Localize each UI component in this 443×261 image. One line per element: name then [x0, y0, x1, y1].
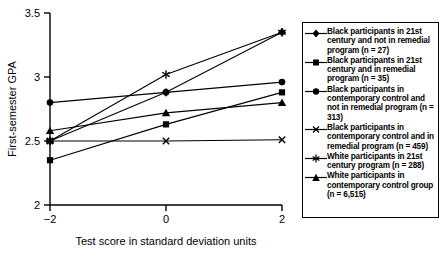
series-layer [46, 28, 286, 163]
series-square [47, 89, 285, 163]
data-point-star-1 [162, 70, 170, 79]
data-point-circle-2 [279, 79, 286, 86]
circle-marker-icon [305, 86, 327, 97]
plot-area: 3.5 3 2.5 2 −2 0 2 First-semester GPA Te… [0, 0, 300, 261]
legend-label-3: Black participants in contemporary contr… [327, 85, 435, 122]
legend-label-6: White participants in contemporary contr… [327, 171, 435, 199]
legend-label-4: Black participants in contemporary contr… [327, 123, 435, 151]
y-tick-label-2: 2 [34, 199, 40, 211]
data-point-triangle-2 [278, 99, 286, 106]
y-tick-label-2.5: 2.5 [25, 135, 40, 147]
data-point-circle-1 [163, 89, 170, 96]
x-tick-label--2: −2 [44, 213, 57, 225]
x-marker-icon [305, 124, 327, 135]
x-tick-label-2: 2 [279, 213, 285, 225]
series-diamond [46, 28, 286, 145]
legend-label-2: Black participants in 21st century and i… [327, 56, 435, 84]
x-axis-title: Test score in standard deviation units [76, 235, 257, 247]
square-marker-icon [305, 57, 327, 68]
legend-item-3: Black participants in contemporary contr… [305, 85, 435, 122]
data-point-square-0 [47, 157, 53, 163]
triangle-marker-icon [305, 172, 327, 183]
chart-figure: 3.5 3 2.5 2 −2 0 2 First-semester GPA Te… [0, 0, 443, 261]
legend-label-5: White participants in 21st century progr… [327, 152, 435, 171]
data-point-square-2 [279, 89, 285, 95]
data-point-square-1 [163, 121, 169, 127]
legend-label-1: Black participants in 21st century and n… [327, 27, 435, 55]
plot-svg: 3.5 3 2.5 2 −2 0 2 First-semester GPA Te… [0, 0, 300, 261]
diamond-marker-icon [305, 28, 327, 39]
legend-item-4: Black participants in contemporary contr… [305, 123, 435, 151]
legend-item-5: White participants in 21st century progr… [305, 152, 435, 171]
legend-item-6: White participants in contemporary contr… [305, 171, 435, 199]
series-triangle [46, 99, 286, 135]
x-tick-label-0: 0 [163, 213, 169, 225]
y-tick-label-3: 3 [34, 71, 40, 83]
legend-box: Black participants in 21st century and n… [302, 22, 439, 218]
legend-item-2: Black participants in 21st century and i… [305, 56, 435, 84]
data-point-circle-0 [47, 99, 54, 106]
y-tick-label-3.5: 3.5 [25, 7, 40, 19]
y-axis-title: First-semester GPA [6, 60, 18, 156]
star-marker-icon [305, 153, 327, 164]
series-x [47, 137, 285, 145]
legend-item-1: Black participants in 21st century and n… [305, 27, 435, 55]
